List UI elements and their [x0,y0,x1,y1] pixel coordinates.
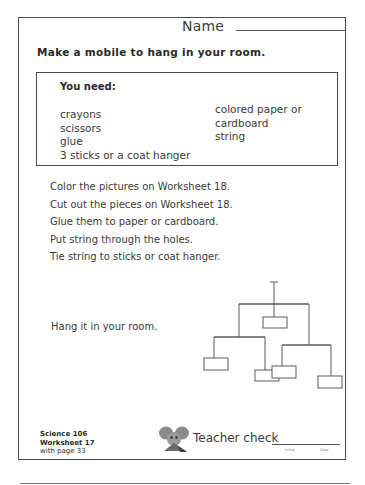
supply-item: string [215,130,302,144]
instruction-steps: Color the pictures on Worksheet 18. Cut … [50,178,233,266]
instruction-step: Glue them to paper or cardboard. [50,213,233,231]
supply-item: cardboard [215,117,302,131]
worksheet-number: Worksheet 17 [40,439,95,448]
supplies-left-column: crayons scissors glue 3 sticks or a coat… [60,108,190,162]
supplies-right-column: colored paper or cardboard string [215,103,302,144]
worksheet-reference: Science 106 Worksheet 17 with page 33 [40,430,95,456]
supply-item: scissors [60,122,190,136]
supply-item: colored paper or [215,103,302,117]
you-need-heading: You need: [60,81,116,92]
supply-item: crayons [60,108,190,122]
page-edge-rule [20,483,350,484]
teacher-check-line[interactable] [272,444,340,445]
name-blank-line[interactable] [236,29,346,31]
name-field-row: Name [182,18,346,34]
course-label: Science 106 [40,430,95,439]
instruction-step: Put string through the holes. [50,231,233,249]
instruction-step: Tie string to sticks or coat hanger. [50,248,233,266]
instruction-step: Cut out the pieces on Worksheet 18. [50,196,233,214]
name-label: Name [182,18,224,34]
mouse-mascot-icon [158,424,190,454]
supply-item: glue [60,135,190,149]
date-label: Date [320,448,328,452]
final-instruction: Hang it in your room. [51,321,157,332]
page-reference: with page 33 [40,447,95,456]
worksheet-title: Make a mobile to hang in your room. [37,46,266,58]
supply-item: 3 sticks or a coat hanger [60,149,190,163]
teacher-check-label: Teacher check [193,431,279,445]
instruction-step: Color the pictures on Worksheet 18. [50,178,233,196]
you-need-box: You need: crayons scissors glue 3 sticks… [36,72,338,166]
initial-label: Initial [285,448,295,452]
